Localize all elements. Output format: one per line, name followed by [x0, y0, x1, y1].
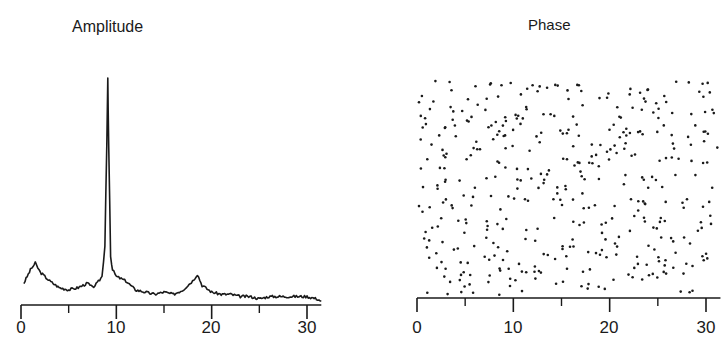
- phase-point: [655, 102, 658, 105]
- phase-point: [498, 294, 501, 297]
- phase-point: [524, 198, 527, 201]
- phase-point: [591, 162, 594, 165]
- phase-point: [566, 267, 569, 270]
- phase-point: [600, 223, 603, 226]
- phase-point: [442, 201, 445, 204]
- phase-point: [670, 134, 673, 137]
- phase-point: [424, 231, 427, 234]
- phase-point: [687, 136, 690, 139]
- phase-point: [516, 117, 519, 120]
- phase-point: [582, 270, 585, 273]
- phase-point: [472, 292, 475, 295]
- phase-point: [569, 245, 572, 248]
- phase-point: [444, 156, 447, 159]
- phase-point: [470, 116, 473, 119]
- phase-point: [588, 161, 591, 164]
- phase-point: [595, 154, 598, 157]
- phase-point: [425, 123, 428, 126]
- phase-point: [571, 238, 574, 241]
- phase-point: [443, 167, 446, 170]
- phase-point: [663, 124, 666, 127]
- phase-point: [651, 176, 654, 179]
- phase-point: [566, 158, 569, 161]
- phase-point: [534, 277, 537, 280]
- phase-point: [703, 140, 706, 143]
- phase-point: [493, 254, 496, 257]
- phase-point: [495, 121, 498, 124]
- phase-point: [472, 147, 475, 150]
- phase-point: [513, 197, 516, 200]
- phase-tick-20: 20: [600, 318, 619, 338]
- phase-point: [567, 128, 570, 131]
- phase-point: [517, 115, 520, 118]
- phase-point: [706, 257, 709, 260]
- phase-point: [449, 106, 452, 109]
- phase-point: [601, 249, 604, 252]
- phase-point: [512, 129, 515, 132]
- phase-point: [516, 187, 519, 190]
- phase-point: [643, 97, 646, 100]
- phase-point: [463, 285, 466, 288]
- phase-point: [451, 207, 454, 210]
- phase-point: [506, 250, 509, 253]
- phase-point: [528, 149, 531, 152]
- phase-point: [599, 144, 602, 147]
- phase-point: [709, 215, 712, 218]
- phase-point: [488, 274, 491, 277]
- phase-point: [619, 136, 622, 139]
- phase-point: [434, 80, 437, 83]
- phase-point: [536, 227, 539, 230]
- phase-point: [716, 146, 719, 149]
- phase-point: [467, 98, 470, 101]
- phase-point: [462, 194, 465, 197]
- phase-point: [509, 277, 512, 280]
- phase-point: [566, 132, 569, 135]
- phase-point: [581, 104, 584, 107]
- phase-point: [526, 88, 529, 91]
- phase-point: [659, 221, 662, 224]
- phase-point: [700, 227, 703, 230]
- phase-point: [453, 248, 456, 251]
- phase-point: [548, 169, 551, 172]
- phase-point: [572, 115, 575, 118]
- phase-point: [674, 252, 677, 255]
- phase-point: [462, 271, 465, 274]
- phase-point: [624, 142, 627, 145]
- phase-point: [631, 276, 634, 279]
- phase-point: [575, 123, 578, 126]
- phase-point: [421, 126, 424, 129]
- phase-point: [701, 255, 704, 258]
- amp-tick-10: 10: [107, 318, 126, 338]
- phase-point: [490, 82, 493, 85]
- phase-point: [634, 153, 637, 156]
- phase-point: [440, 217, 443, 220]
- phase-point: [562, 158, 565, 161]
- phase-point: [470, 154, 473, 157]
- phase-point: [546, 87, 549, 90]
- phase-point: [644, 203, 647, 206]
- phase-point: [439, 167, 442, 170]
- phase-point: [629, 88, 632, 91]
- phase-point: [487, 281, 490, 284]
- phase-point: [647, 187, 650, 190]
- phase-point: [572, 245, 575, 248]
- phase-point: [690, 113, 693, 116]
- phase-point: [552, 198, 555, 201]
- phase-point: [436, 187, 439, 190]
- phase-point: [637, 131, 640, 134]
- phase-point: [605, 256, 608, 259]
- phase-point: [463, 232, 466, 235]
- phase-point: [609, 148, 612, 151]
- phase-point: [598, 165, 601, 168]
- phase-point: [444, 268, 447, 271]
- phase-point: [521, 270, 524, 273]
- phase-point: [665, 101, 668, 104]
- phase-point: [595, 252, 598, 255]
- phase-point: [554, 258, 557, 261]
- phase-point: [420, 167, 423, 170]
- phase-point: [562, 132, 565, 135]
- phase-point: [502, 228, 505, 231]
- phase-point: [607, 92, 610, 95]
- phase-point: [655, 179, 658, 182]
- phase-point: [628, 93, 631, 96]
